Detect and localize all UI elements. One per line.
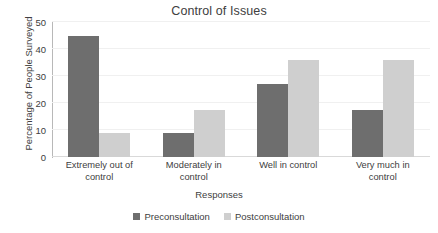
bar-postconsultation[interactable] bbox=[383, 60, 414, 157]
x-axis-tick-label-line: Extremely out of bbox=[52, 160, 147, 172]
bar-postconsultation[interactable] bbox=[288, 60, 319, 157]
legend-swatch-icon bbox=[133, 213, 140, 220]
bar-preconsultation[interactable] bbox=[257, 84, 288, 157]
x-axis-tick-label-line: Well in control bbox=[241, 160, 336, 172]
chart-legend: PreconsultationPostconsultation bbox=[0, 211, 438, 222]
y-axis-tick-label: 0 bbox=[26, 153, 46, 163]
bar-preconsultation[interactable] bbox=[68, 36, 99, 158]
legend-label: Postconsultation bbox=[235, 211, 305, 222]
x-axis-tick-label: Very much incontrol bbox=[336, 160, 431, 183]
bar-postconsultation[interactable] bbox=[194, 110, 225, 157]
x-axis-tick-label-line: control bbox=[336, 172, 431, 184]
x-axis-tick-label-line: control bbox=[52, 172, 147, 184]
bar-group bbox=[163, 22, 225, 157]
y-axis-tick-label: 50 bbox=[26, 18, 46, 28]
y-axis-tick-label: 10 bbox=[26, 126, 46, 136]
y-axis-tick-label: 20 bbox=[26, 99, 46, 109]
x-axis-tick-label: Extremely out ofcontrol bbox=[52, 160, 147, 183]
legend-item[interactable]: Postconsultation bbox=[224, 211, 305, 222]
x-axis-tick-label-line: Moderately in bbox=[147, 160, 242, 172]
x-axis-tick-label-line: Very much in bbox=[336, 160, 431, 172]
legend-label: Preconsultation bbox=[144, 211, 209, 222]
bar-preconsultation[interactable] bbox=[352, 110, 383, 157]
y-axis-tick-labels: 01020304050 bbox=[24, 22, 46, 158]
bar-chart: Control of Issues Percentage of People S… bbox=[0, 0, 438, 233]
plot-area bbox=[52, 22, 430, 157]
legend-item[interactable]: Preconsultation bbox=[133, 211, 209, 222]
legend-swatch-icon bbox=[224, 213, 231, 220]
bar-group bbox=[257, 22, 319, 157]
chart-title: Control of Issues bbox=[0, 4, 438, 18]
x-axis-tick-labels: Extremely out ofcontrolModerately incont… bbox=[52, 160, 430, 188]
bar-postconsultation[interactable] bbox=[99, 133, 130, 157]
bar-group bbox=[352, 22, 414, 157]
x-axis-title: Responses bbox=[0, 189, 438, 200]
x-axis-tick-label: Well in control bbox=[241, 160, 336, 172]
x-axis-tick-label: Moderately incontrol bbox=[147, 160, 242, 183]
bar-preconsultation[interactable] bbox=[163, 133, 194, 157]
bar-group bbox=[68, 22, 130, 157]
y-axis-tick-label: 30 bbox=[26, 72, 46, 82]
x-axis-tick-label-line: control bbox=[147, 172, 242, 184]
y-axis-tick-label: 40 bbox=[26, 45, 46, 55]
